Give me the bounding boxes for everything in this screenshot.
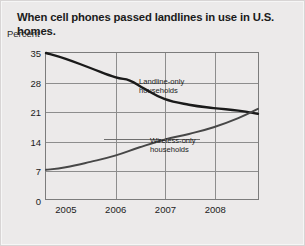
series-lines: [46, 53, 258, 199]
x-axis-tick-label: 2005: [55, 204, 76, 215]
annotation-wireless-only: Wireless-only households: [150, 136, 196, 154]
x-axis-tick-label: 2008: [205, 204, 226, 215]
x-axis-tick-label: 2006: [105, 204, 126, 215]
annotation-landline-only: Landline-only households: [139, 77, 184, 95]
y-axis-tick-label: 35: [30, 48, 41, 59]
annotation-landline-line2: households: [139, 86, 184, 95]
y-axis-tick-label: 14: [30, 136, 41, 147]
x-axis-tick-label: 2007: [155, 204, 176, 215]
annotation-wireless-line2: households: [150, 145, 196, 154]
y-axis-tick-label: 0: [36, 196, 41, 207]
y-axis-tick-label: 28: [30, 77, 41, 88]
annotation-landline-line1: Landline-only: [139, 77, 184, 86]
y-axis-tick-label: 21: [30, 107, 41, 118]
y-axis-tick-label: 7: [36, 166, 41, 177]
chart-title: When cell phones passed landlines in use…: [17, 10, 295, 38]
annotation-wireless-line1: Wireless-only: [150, 136, 196, 145]
plot-area: 0714212835 2005200620072008 Landline-onl…: [45, 52, 259, 200]
y-axis-unit-label: Percent: [7, 28, 40, 39]
chart-figure: When cell phones passed landlines in use…: [0, 0, 305, 246]
